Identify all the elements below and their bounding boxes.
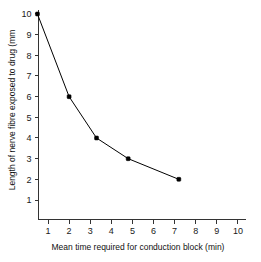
axes bbox=[39, 10, 246, 220]
y-tick-label: 6 bbox=[26, 92, 31, 102]
x-tick-label: 4 bbox=[109, 226, 114, 236]
data-point-marker bbox=[67, 95, 71, 99]
data-point-marker bbox=[95, 136, 99, 140]
y-tick-label: 4 bbox=[26, 133, 31, 143]
series-line bbox=[37, 14, 178, 179]
y-axis-label: Length of nerve fibre exposed to drug (m… bbox=[7, 30, 17, 191]
line-chart: 12345678910 12345678910 Mean time requir… bbox=[0, 0, 261, 262]
x-tick-label: 7 bbox=[172, 226, 177, 236]
y-tick-label: 10 bbox=[21, 9, 31, 19]
y-tick-label: 5 bbox=[26, 113, 31, 123]
data-point-marker bbox=[35, 12, 39, 16]
x-tick-label: 2 bbox=[67, 226, 72, 236]
x-tick-label: 6 bbox=[151, 226, 156, 236]
x-tick-label: 8 bbox=[193, 226, 198, 236]
y-tick-label: 2 bbox=[26, 175, 31, 185]
y-tick-label: 7 bbox=[26, 71, 31, 81]
x-tick-label: 10 bbox=[233, 226, 243, 236]
x-tick-label: 9 bbox=[214, 226, 219, 236]
y-tick-label: 3 bbox=[26, 154, 31, 164]
x-tick-label: 3 bbox=[88, 226, 93, 236]
x-axis-ticks: 12345678910 bbox=[45, 220, 242, 236]
data-point-marker bbox=[126, 157, 130, 161]
y-tick-label: 9 bbox=[26, 30, 31, 40]
data-series bbox=[35, 12, 180, 181]
data-point-marker bbox=[177, 177, 181, 181]
y-tick-label: 1 bbox=[26, 195, 31, 205]
x-tick-label: 5 bbox=[130, 226, 135, 236]
y-axis-ticks: 12345678910 bbox=[21, 9, 38, 205]
y-tick-label: 8 bbox=[26, 51, 31, 61]
chart-figure: 12345678910 12345678910 Mean time requir… bbox=[0, 0, 261, 262]
x-axis-label: Mean time required for conduction block … bbox=[52, 242, 225, 252]
x-tick-label: 1 bbox=[45, 226, 50, 236]
